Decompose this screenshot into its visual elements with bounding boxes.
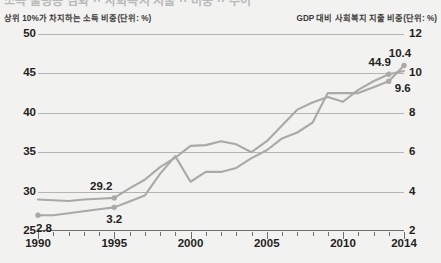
- x-axis-tick-mark: [343, 232, 344, 239]
- x-axis-tick-mark: [313, 232, 314, 236]
- data-point-marker: [35, 213, 40, 218]
- y-axis-tick-left: 40: [23, 107, 36, 119]
- data-point-label: 3.2: [106, 214, 122, 226]
- data-point-marker: [386, 79, 391, 84]
- y-axis-tick-right: 10: [409, 67, 422, 79]
- y-axis-tick-right: 6: [409, 146, 415, 158]
- data-point-marker: [112, 195, 117, 200]
- data-point-marker: [386, 71, 391, 76]
- x-axis-tick-mark: [267, 232, 268, 239]
- x-axis-tick-label: 2010: [330, 238, 356, 250]
- x-axis-tick-mark: [206, 232, 207, 236]
- x-axis-tick-mark: [114, 232, 115, 239]
- data-point-label: 29.2: [90, 181, 112, 193]
- y-axis-tick-left: 50: [23, 28, 36, 40]
- data-point-label: 10.4: [389, 48, 411, 60]
- x-axis-tick-mark: [84, 232, 85, 236]
- y-axis-tick-right: 12: [409, 28, 422, 40]
- y-axis-tick-left: 35: [23, 146, 36, 158]
- x-axis-tick-mark: [374, 232, 375, 236]
- x-axis-tick-mark: [191, 232, 192, 239]
- x-axis-tick-mark: [358, 232, 359, 236]
- data-point-marker: [401, 63, 406, 68]
- x-axis-tick-mark: [145, 232, 146, 236]
- y-axis-tick-right: 8: [409, 107, 415, 119]
- x-axis-tick-mark: [38, 232, 39, 239]
- data-point-label: 44.9: [369, 57, 391, 69]
- y-axis-tick-right: 2: [409, 225, 415, 237]
- x-axis-tick-mark: [389, 232, 390, 236]
- y-axis-tick-left: 45: [23, 67, 36, 79]
- x-axis-tick-label: 1990: [25, 238, 51, 250]
- chart-container: 소득 불평등 심화 ·· 사회복지 지출 ·· 비중 ·· 추이 상위 10%가…: [0, 0, 441, 263]
- y-axis-tick-left: 25: [23, 225, 36, 237]
- x-axis-tick-mark: [221, 232, 222, 236]
- x-axis-tick-mark: [160, 232, 161, 236]
- x-axis-tick-mark: [175, 232, 176, 236]
- x-axis-tick-mark: [130, 232, 131, 236]
- x-axis-tick-mark: [69, 232, 70, 236]
- x-axis-tick-label: 1995: [101, 238, 127, 250]
- x-axis-tick-mark: [282, 232, 283, 236]
- x-axis-tick-mark: [297, 232, 298, 236]
- x-axis-tick-mark: [99, 232, 100, 236]
- y-axis-tick-right: 4: [409, 186, 415, 198]
- x-axis-tick-mark: [53, 232, 54, 236]
- data-point-label: 9.6: [395, 83, 411, 95]
- x-axis-tick-mark: [328, 232, 329, 236]
- x-axis-tick-label: 2005: [254, 238, 280, 250]
- x-axis-tick-label: 2000: [178, 238, 204, 250]
- x-axis-tick-mark: [236, 232, 237, 236]
- data-point-marker: [112, 205, 117, 210]
- x-axis-tick-mark: [404, 232, 405, 239]
- x-axis-tick-mark: [252, 232, 253, 236]
- series-layer: [0, 0, 441, 263]
- x-axis-tick-label: 2014: [391, 238, 417, 250]
- y-axis-tick-left: 30: [23, 186, 36, 198]
